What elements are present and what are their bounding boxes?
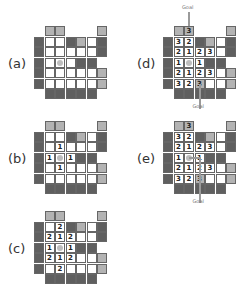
grid-cell: [45, 58, 55, 68]
agent-marker: [57, 245, 63, 251]
grid-cell: 1: [55, 232, 65, 242]
grid-cell: [55, 174, 65, 184]
grid-cell: 3: [205, 47, 215, 57]
grid-cell: [45, 121, 55, 131]
grid-cell: [34, 232, 44, 242]
grid-cell: [45, 222, 55, 232]
grid-cell: [45, 163, 55, 173]
grid-cell: [216, 153, 226, 163]
grid-cell: [87, 132, 97, 142]
grid-cell: [87, 37, 97, 47]
grid-cell: [87, 184, 97, 194]
grid-cell: [76, 37, 86, 47]
grid-cell: [66, 89, 76, 99]
grid-cell: 2: [195, 47, 205, 57]
grid-cell: [87, 274, 97, 284]
grid-cell: [216, 132, 226, 142]
grid-cell: [184, 89, 194, 99]
grid-cell: 3: [174, 132, 184, 142]
grid-cell: [87, 89, 97, 99]
panel-label-b: (b): [8, 151, 26, 166]
grid-cell: [174, 184, 184, 194]
goal-label-bottom: Goal: [193, 103, 204, 109]
agent-marker: [186, 60, 192, 66]
grid-cell: [45, 142, 55, 152]
grid-cell: [76, 47, 86, 57]
grid-cell: 1: [195, 58, 205, 68]
grid-cell: [45, 68, 55, 78]
grid-cell: [45, 132, 55, 142]
grid-cell: [66, 68, 76, 78]
grid-cell: [87, 79, 97, 89]
grid-cell: [205, 153, 215, 163]
grid-cell: [163, 163, 173, 173]
grid-cell: [34, 264, 44, 274]
grid-cell: [163, 132, 173, 142]
grid-cell: [34, 47, 44, 57]
grid-cell: [66, 79, 76, 89]
grid-cell: [174, 89, 184, 99]
grid-cell: [66, 47, 76, 57]
grid-cell: [97, 163, 107, 173]
grid-cell: 1: [55, 163, 65, 173]
grid-cell: 1: [45, 153, 55, 163]
grid-cell: [226, 47, 236, 57]
grid-cell: [97, 121, 107, 131]
grid-cell: 2: [184, 174, 194, 184]
grid-cell: [66, 142, 76, 152]
grid-cell: [216, 163, 226, 173]
grid-cell: [76, 243, 86, 253]
grid-cell: [87, 264, 97, 274]
grid-cell: [97, 132, 107, 142]
grid-cell: [87, 232, 97, 242]
grid-cell: 1: [184, 68, 194, 78]
grid-cell: [66, 222, 76, 232]
grid-cell: [45, 274, 55, 284]
grid-cell: [55, 184, 65, 194]
grid-cell: [97, 26, 107, 36]
grid-cell: 3: [174, 174, 184, 184]
panel-label-e: (e): [137, 151, 155, 166]
grid-cell: 2: [55, 222, 65, 232]
grid-cell: [55, 132, 65, 142]
grid-cell: [216, 47, 226, 57]
grid-cell: [205, 89, 215, 99]
grid-cell: [45, 184, 55, 194]
grid-cell: 2: [66, 253, 76, 263]
goal-label-bottom: Goal: [193, 198, 204, 204]
grid-cell: [216, 184, 226, 194]
grid-cell: [195, 132, 205, 142]
grid-cell: [76, 142, 86, 152]
grid-cell: 1: [184, 47, 194, 57]
grid-cell: [97, 211, 107, 221]
grid-cell: 1: [55, 253, 65, 263]
grid-cell: [195, 37, 205, 47]
grid-cell: 1: [174, 153, 184, 163]
grid-cell: 2: [45, 232, 55, 242]
panel-label-d: (d): [137, 56, 155, 71]
grid-cell: [163, 153, 173, 163]
grid-cell: 1: [66, 153, 76, 163]
grid-cell: 2: [184, 79, 194, 89]
grid-cell: [66, 184, 76, 194]
grid-cell: [97, 68, 107, 78]
grid-cell: [97, 232, 107, 242]
grid-cell: 2: [184, 132, 194, 142]
grid-cell: [55, 26, 65, 36]
grid-cell: [226, 79, 236, 89]
grid-cell: [76, 89, 86, 99]
grid-cell: [55, 68, 65, 78]
grid-cell: [76, 132, 86, 142]
grid-cell: [55, 79, 65, 89]
grid-cell: [45, 79, 55, 89]
grid-cell: [97, 79, 107, 89]
grid-cell: [87, 58, 97, 68]
grid-cell: [97, 174, 107, 184]
grid-cell: 3: [205, 163, 215, 173]
grid-cell: [205, 79, 215, 89]
grid-cell: [163, 37, 173, 47]
grid-cell: 2: [174, 68, 184, 78]
grid-cell: [45, 47, 55, 57]
grid-cell: [76, 68, 86, 78]
grid-cell: [97, 264, 107, 274]
